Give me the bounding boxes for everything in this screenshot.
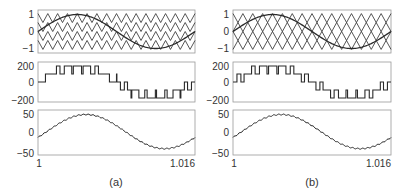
- data-series: [233, 66, 391, 98]
- panel-a-caption: (a): [109, 176, 122, 188]
- panel-a: 1 0 −1 200 0 −200 50 0 −50 1 1.016 (a): [11, 9, 195, 188]
- panel-b-bot-ytick-50: 50: [218, 109, 230, 120]
- panel-b-mid-ytick-0: 0: [223, 77, 229, 88]
- panel-b-top-ytick-neg1: −1: [218, 43, 230, 54]
- figure: 1 0 −1 200 0 −200 50 0 −50 1 1.016 (a) 1…: [0, 0, 406, 193]
- data-series: [38, 23, 195, 32]
- panel-a-xtick-end: 1.016: [170, 158, 195, 169]
- panel-b-mid-ytick-200: 200: [212, 61, 229, 72]
- data-series: [38, 114, 195, 149]
- panel-a-top-ytick-neg1: −1: [23, 43, 35, 54]
- panel-a-bot-ytick-50: 50: [23, 109, 35, 120]
- panel-b-mid-ytick-neg200: −200: [206, 95, 229, 106]
- panel-a-bot-frame: [38, 110, 195, 155]
- panel-b-top-plot: [233, 14, 391, 50]
- data-series: [233, 23, 391, 32]
- panel-a-bot-plot: [38, 114, 195, 149]
- data-series: [233, 32, 391, 41]
- panel-b-bot-plot: [233, 114, 391, 149]
- panel-a-mid-ytick-0: 0: [28, 77, 34, 88]
- data-series: [38, 66, 195, 98]
- panel-b-mid-plot: [233, 66, 391, 98]
- panel-a-mid-plot: [38, 66, 195, 98]
- panel-a-mid-ytick-neg200: −200: [11, 95, 34, 106]
- panel-b-xtick-end: 1.016: [366, 158, 391, 169]
- panel-a-bot-ytick-neg50: −50: [17, 148, 34, 159]
- data-series: [38, 32, 195, 41]
- panel-b-caption: (b): [305, 176, 318, 188]
- panel-b-bot-ytick-neg50: −50: [212, 148, 229, 159]
- panel-a-xtick-start: 1: [36, 158, 42, 169]
- panel-a-top-ytick-1: 1: [28, 9, 34, 20]
- panel-b-top-ytick-0: 0: [223, 26, 229, 37]
- panel-b-bot-frame: [233, 110, 391, 155]
- panel-a-bot-ytick-0: 0: [28, 127, 34, 138]
- panel-a-top-ytick-0: 0: [28, 26, 34, 37]
- panel-b-top-ytick-1: 1: [223, 9, 229, 20]
- panel-b-bot-ytick-0: 0: [223, 127, 229, 138]
- panel-b-xtick-start: 1: [231, 158, 237, 169]
- panel-b: 1 0 −1 200 0 −200 50 0 −50 1 1.016 (b): [206, 9, 391, 188]
- data-series: [233, 114, 391, 149]
- panel-a-mid-ytick-200: 200: [17, 61, 34, 72]
- panel-a-top-plot: [38, 14, 195, 50]
